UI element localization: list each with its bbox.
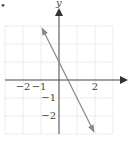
- y-tick-label: −1: [41, 92, 56, 103]
- x-tick-label: −1: [32, 81, 47, 92]
- x-tick-label: −2: [16, 81, 31, 92]
- x-tick-label: 2: [92, 81, 98, 92]
- problem-bullet: •: [0, 0, 6, 11]
- plotted-line-segment: [68, 80, 94, 131]
- coordinate-plane: • y −2 −1 2 −1 −2: [0, 0, 132, 141]
- y-tick-label: −2: [41, 110, 56, 121]
- plotted-line-segment: [43, 29, 69, 80]
- y-axis-label: y: [55, 0, 62, 8]
